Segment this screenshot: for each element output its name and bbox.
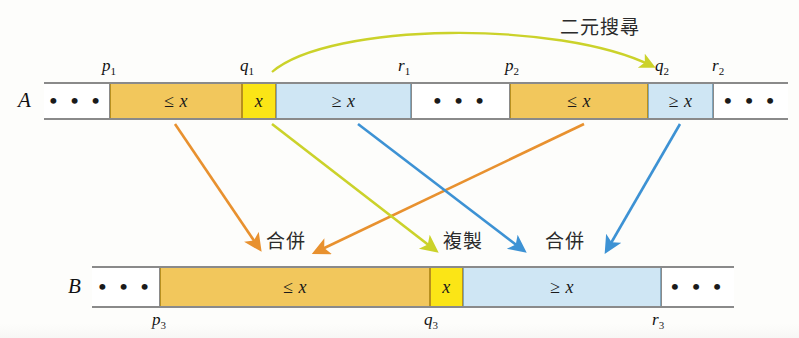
array-a-cell-ellipsis-mid: • • • — [411, 84, 510, 118]
array-b-cell-ellipsis-right: • • • — [661, 268, 734, 306]
binary-search-label: 二元搜尋 — [560, 12, 640, 39]
index-label-p1: p1 — [102, 56, 116, 77]
index-label-q2: q2 — [655, 56, 669, 77]
array-a-cell-ge-x-1: ≥ x — [276, 84, 411, 118]
array-a-name: A — [18, 88, 31, 113]
array-a-cell-le-x-1: ≤ x — [110, 84, 242, 118]
array-a-cell-ge-x-2: ≥ x — [648, 84, 713, 118]
index-label-p2: p2 — [505, 56, 519, 77]
array-b-cell-ellipsis-left: • • • — [92, 268, 160, 306]
array-a-cell-ellipsis-left: • • • — [44, 84, 110, 118]
array-a-cell-le-x-2: ≤ x — [510, 84, 648, 118]
array-a-cell-x-1: x — [242, 84, 276, 118]
merge-arrow-blue-left — [358, 124, 523, 250]
operation-label-merge-left: 合併 — [266, 226, 306, 253]
operation-label-copy: 複製 — [443, 226, 483, 253]
index-label-q1: q1 — [240, 56, 254, 77]
array-b-cell-le-x: ≤ x — [160, 268, 430, 306]
merge-diagram: 二元搜尋 A • • • ≤ x x ≥ x • • • ≤ x ≥ x • •… — [0, 0, 799, 338]
array-b: • • • ≤ x x ≥ x • • • — [92, 266, 734, 308]
array-b-cell-ge-x: ≥ x — [463, 268, 661, 306]
index-label-r1: r1 — [398, 56, 410, 77]
array-b-name: B — [68, 274, 81, 299]
array-a-cell-ellipsis-right: • • • — [713, 84, 788, 118]
page-scan-edge — [0, 324, 799, 338]
array-a: • • • ≤ x x ≥ x • • • ≤ x ≥ x • • • — [44, 82, 788, 120]
merge-arrow-orange-left — [175, 124, 259, 248]
merge-arrow-blue-right — [607, 124, 680, 250]
operation-label-merge-right: 合併 — [545, 226, 585, 253]
array-b-cell-x: x — [430, 268, 463, 306]
index-label-r2: r2 — [712, 56, 724, 77]
